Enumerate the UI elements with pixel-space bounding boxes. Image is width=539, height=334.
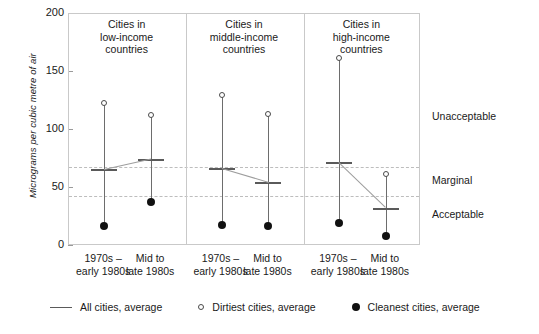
cleanest-cities-marker xyxy=(147,198,155,206)
dirtiest-cities-marker xyxy=(148,112,154,118)
panel-title-line: countries xyxy=(68,43,185,56)
y-axis-tick-label: 0 xyxy=(24,239,64,250)
cleanest-cities-marker xyxy=(382,232,390,240)
open-circle-marker-icon xyxy=(198,304,204,310)
y-axis-tick-label: 200 xyxy=(24,7,64,18)
legend-item-cleanest-cities: Cleanest cities, average xyxy=(352,301,480,313)
dirtiest-cities-marker xyxy=(265,111,271,117)
reference-line-marginal-acceptable-boundary xyxy=(69,196,419,197)
panel-title-line: middle-income xyxy=(185,31,302,44)
chart-legend: All cities, average Dirtiest cities, ave… xyxy=(50,297,490,317)
reference-line-unacceptable-marginal-boundary xyxy=(69,167,419,168)
cleanest-cities-marker xyxy=(335,219,343,227)
panel-title-line: countries xyxy=(303,43,420,56)
line-marker-icon xyxy=(50,307,72,308)
cleanest-cities-marker xyxy=(264,222,272,230)
dirtiest-cities-marker xyxy=(336,55,342,61)
y-axis-tick-label: 100 xyxy=(24,123,64,134)
band-label-acceptable: Acceptable xyxy=(432,208,484,220)
panel-title: Cities inlow-incomecountries xyxy=(68,18,185,56)
panel-title: Cities inhigh-incomecountries xyxy=(303,18,420,56)
panel-title-line: Cities in xyxy=(68,18,185,31)
dirtiest-cities-marker xyxy=(101,100,107,106)
dirtiest-cities-marker xyxy=(219,92,225,98)
range-stem xyxy=(268,114,269,227)
cleanest-cities-marker xyxy=(218,221,226,229)
range-stem xyxy=(339,58,340,223)
band-label-marginal: Marginal xyxy=(432,174,472,186)
y-axis-tick-group: 200150100500 xyxy=(20,0,64,260)
average-trend-connector xyxy=(338,162,386,208)
legend-label-all-cities: All cities, average xyxy=(80,301,162,313)
panel-title: Cities inmiddle-incomecountries xyxy=(185,18,302,56)
panel-title-line: countries xyxy=(185,43,302,56)
range-stem xyxy=(386,174,387,235)
panel-title-line: Cities in xyxy=(303,18,420,31)
legend-label-cleanest-cities: Cleanest cities, average xyxy=(368,301,480,313)
band-label-unacceptable: Unacceptable xyxy=(432,110,496,122)
legend-item-all-cities: All cities, average xyxy=(50,301,162,313)
x-axis-tick-label-line: Mid to xyxy=(342,252,428,265)
panel-title-line: low-income xyxy=(68,31,185,44)
range-stem xyxy=(222,95,223,225)
x-axis-tick-label: Mid tolate 1980s xyxy=(342,252,428,277)
air-quality-chart: Micrograms per cubic metre of air 200150… xyxy=(0,0,539,334)
average-marker xyxy=(373,208,399,210)
legend-label-dirtiest-cities: Dirtiest cities, average xyxy=(212,301,315,313)
x-axis-tick-label-line: late 1980s xyxy=(342,265,428,278)
cleanest-cities-marker xyxy=(100,222,108,230)
y-axis-tick-label: 50 xyxy=(24,181,64,192)
y-axis-tick-label: 150 xyxy=(24,65,64,76)
panel-title-line: Cities in xyxy=(185,18,302,31)
y-axis-tick-mark xyxy=(68,245,73,246)
average-trend-connector xyxy=(221,168,268,183)
filled-circle-marker-icon xyxy=(352,303,360,311)
legend-item-dirtiest-cities: Dirtiest cities, average xyxy=(198,301,315,313)
panel-title-line: high-income xyxy=(303,31,420,44)
dirtiest-cities-marker xyxy=(383,171,389,177)
range-stem xyxy=(104,103,105,226)
